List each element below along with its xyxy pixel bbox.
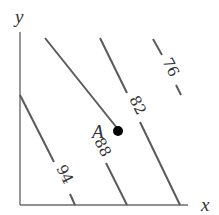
x-axis-label: x bbox=[200, 194, 210, 215]
contour-diagram: y x 94 88 82 76 A bbox=[0, 0, 219, 215]
contour-88: 88 bbox=[45, 38, 127, 205]
contour-label-76: 76 bbox=[158, 55, 183, 80]
y-axis-label: y bbox=[13, 6, 24, 27]
contour-label-94: 94 bbox=[52, 162, 77, 187]
contour-94: 94 bbox=[20, 95, 77, 205]
point-a-label: A bbox=[90, 121, 104, 142]
contour-label-82: 82 bbox=[125, 93, 150, 118]
point-a-marker bbox=[113, 126, 123, 136]
contour-76: 76 bbox=[153, 39, 183, 95]
